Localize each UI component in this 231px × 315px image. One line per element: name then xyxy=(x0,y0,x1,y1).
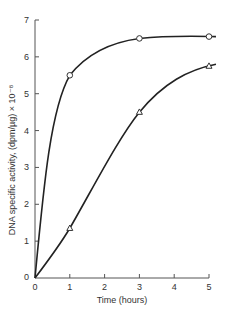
circle-marker xyxy=(137,36,143,42)
x-tick-label: 4 xyxy=(172,282,177,292)
axes: 01234567012345 xyxy=(24,15,212,292)
lower-curve xyxy=(35,64,216,278)
x-tick-label: 5 xyxy=(206,282,211,292)
markers xyxy=(67,34,212,231)
x-tick-label: 0 xyxy=(32,282,37,292)
x-axis-title: Time (hours) xyxy=(97,295,148,305)
circle-marker xyxy=(67,72,73,78)
y-tick-label: 4 xyxy=(24,126,29,136)
y-tick-label: 3 xyxy=(24,162,29,172)
chart: 01234567012345 Time (hours) DNA specific… xyxy=(0,0,231,315)
y-tick-label: 6 xyxy=(24,52,29,62)
circle-marker xyxy=(206,34,212,40)
x-tick-label: 1 xyxy=(67,282,72,292)
x-tick-label: 3 xyxy=(137,282,142,292)
y-tick-label: 7 xyxy=(24,15,29,25)
y-tick-label: 2 xyxy=(24,199,29,209)
x-tick-label: 2 xyxy=(102,282,107,292)
y-axis-title: DNA specific activity, (dpm/µg) × 10⁻⁸ xyxy=(7,84,17,235)
y-tick-label: 5 xyxy=(24,89,29,99)
y-tick-label: 0 xyxy=(24,272,29,282)
y-tick-label: 1 xyxy=(24,236,29,246)
curves xyxy=(35,36,216,278)
